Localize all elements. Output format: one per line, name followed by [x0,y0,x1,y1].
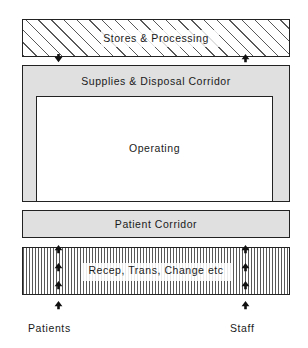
zone-patient-corridor-label: Patient Corridor [23,218,289,230]
patients-flow-arrow-1 [54,245,63,256]
staff-entry-arrow [241,301,250,312]
reception-label-backdrop [81,263,233,281]
disposal-out-arrow [241,54,250,65]
staff-flow-arrow-1 [241,245,250,256]
staff-flow-arrow-3 [241,281,250,292]
zone-stores-and-processing: Stores & Processing [22,19,290,57]
supplies-in-arrow [54,54,63,65]
patients-flow-arrow-2 [54,263,63,274]
operating-department-flow-diagram: Stores & Processing Supplies & Disposal … [0,0,308,348]
flow-label-patients: Patients [28,322,71,334]
corridor-top-bar: Supplies & Disposal Corridor [22,65,290,97]
stores-label-backdrop [101,30,219,47]
patients-entry-arrow [54,301,63,312]
zone-operating: Operating [36,96,273,202]
flow-label-staff: Staff [230,322,254,334]
zone-operating-label: Operating [37,142,272,154]
zone-patient-corridor: Patient Corridor [22,210,290,238]
zone-supplies-corridor-label: Supplies & Disposal Corridor [23,75,289,87]
staff-flow-arrow-2 [241,263,250,274]
patients-flow-arrow-3 [54,281,63,292]
